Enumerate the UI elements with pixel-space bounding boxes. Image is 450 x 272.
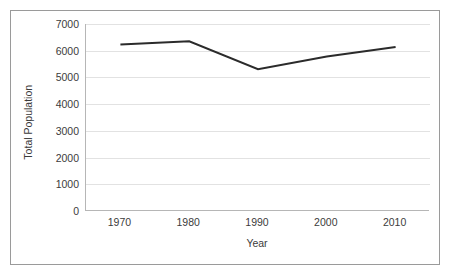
x-axis-tick-labels: 19701980199020002010 bbox=[85, 217, 429, 233]
x-tick-label: 1970 bbox=[89, 217, 149, 228]
plot-area bbox=[85, 24, 429, 211]
y-tick-label: 5000 bbox=[19, 72, 79, 83]
series-line-total-population bbox=[120, 41, 395, 69]
y-tick-label: 2000 bbox=[19, 152, 79, 163]
y-tick-label: 6000 bbox=[19, 45, 79, 56]
x-tick-label: 2010 bbox=[365, 217, 425, 228]
x-tick-label: 1990 bbox=[227, 217, 287, 228]
x-axis-title: Year bbox=[85, 238, 429, 249]
x-tick-label: 1980 bbox=[158, 217, 218, 228]
x-tick-label: 2000 bbox=[296, 217, 356, 228]
series-line-chart bbox=[86, 24, 430, 211]
y-tick-label: 7000 bbox=[19, 19, 79, 30]
y-axis-tick-labels: 01000200030004000500060007000 bbox=[17, 24, 79, 211]
y-tick-label: 3000 bbox=[19, 126, 79, 137]
y-tick-label: 1000 bbox=[19, 179, 79, 190]
chart-figure: Total Population 01000200030004000500060… bbox=[10, 10, 440, 265]
y-tick-label: 0 bbox=[19, 206, 79, 217]
y-tick-label: 4000 bbox=[19, 99, 79, 110]
